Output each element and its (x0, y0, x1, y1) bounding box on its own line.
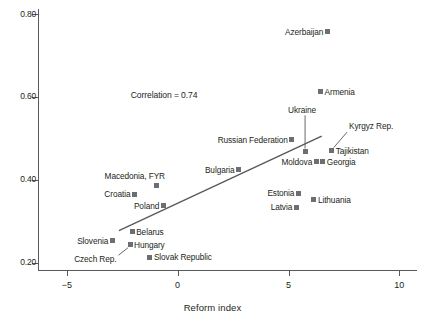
data-point-marker[interactable] (314, 159, 319, 164)
x-axis-title: Reform index (0, 302, 425, 313)
data-point-marker[interactable] (329, 148, 334, 153)
x-tick-label: 5 (274, 280, 304, 290)
data-point-label: Slovak Republic (154, 253, 212, 262)
y-axis-line (38, 9, 39, 271)
scatter-chart: 0.200.400.600.80 −50510 AzerbaijanArmeni… (0, 0, 425, 326)
x-tick (67, 271, 68, 276)
data-point-marker[interactable] (294, 205, 299, 210)
data-point-marker[interactable] (130, 229, 135, 234)
data-point-marker[interactable] (147, 255, 152, 260)
data-point-marker[interactable] (154, 183, 159, 188)
data-point-marker[interactable] (289, 137, 294, 142)
data-point-label: Croatia (104, 190, 130, 199)
x-tick-label: 0 (163, 280, 193, 290)
data-point-label: Moldova (282, 157, 313, 166)
correlation-annotation: Correlation = 0.74 (131, 90, 198, 100)
data-point-label: Belarus (136, 227, 163, 236)
data-point-marker[interactable] (110, 238, 115, 243)
y-tick-label: 0.80 (0, 10, 36, 19)
data-point-marker[interactable] (236, 167, 241, 172)
data-point-label: Tajikistan (336, 146, 369, 155)
trend-line-layer (0, 0, 425, 326)
data-point-marker[interactable] (320, 159, 325, 164)
x-axis-line (38, 270, 417, 271)
data-point-label: Georgia (327, 157, 356, 166)
x-tick (289, 271, 290, 276)
data-point-marker[interactable] (318, 89, 323, 94)
data-point-label: Slovenia (77, 236, 108, 245)
data-point-label: Latvia (271, 203, 293, 212)
data-point-label: Bulgaria (205, 165, 235, 174)
data-point-label: Ukraine (288, 106, 316, 115)
x-tick-label: 10 (384, 280, 414, 290)
x-tick-label: −5 (52, 280, 82, 290)
data-point-label: Russian Federation (218, 135, 288, 144)
data-point-marker[interactable] (128, 242, 133, 247)
x-tick (178, 271, 179, 276)
data-point-label: Hungary (134, 240, 165, 249)
y-tick-label: 0.60 (0, 92, 36, 101)
data-point-label: Czech Rep. (74, 255, 116, 264)
data-point-label: Azerbaijan (285, 27, 323, 36)
y-tick-label: 0.40 (0, 175, 36, 184)
data-point-label: Macedonia, FYR (105, 172, 165, 181)
x-tick (399, 271, 400, 276)
data-point-label: Poland (134, 201, 159, 210)
data-point-label: Lithuania (318, 195, 351, 204)
y-tick-label: 0.20 (0, 258, 36, 267)
data-point-marker[interactable] (296, 191, 301, 196)
data-point-marker[interactable] (303, 149, 308, 154)
data-point-label: Kyrgyz Rep. (349, 122, 393, 131)
data-point-label: Estonia (267, 189, 294, 198)
data-point-marker[interactable] (311, 197, 316, 202)
data-point-marker[interactable] (325, 29, 330, 34)
data-point-marker[interactable] (132, 192, 137, 197)
data-point-label: Armenia (325, 87, 355, 96)
data-point-marker[interactable] (161, 203, 166, 208)
